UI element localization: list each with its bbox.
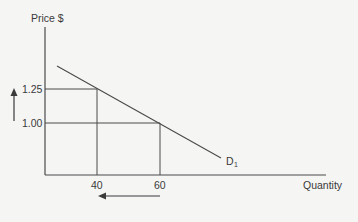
x-axis-label: Quantity — [303, 180, 342, 191]
x-tick-60: 60 — [154, 180, 166, 191]
y-axis-label: Price $ — [31, 13, 64, 24]
curve-label-main: D — [226, 155, 234, 167]
y-tick-1-25: 1.25 — [22, 84, 42, 95]
y-tick-1-00: 1.00 — [22, 118, 42, 129]
price-up-arrow-icon — [11, 88, 18, 121]
demand-chart: Price $ 1.25 1.00 40 60 Quantity D1 — [0, 0, 358, 222]
curve-label-d1: D1 — [226, 156, 238, 167]
demand-curve-d1 — [57, 66, 221, 158]
quantity-left-arrow-icon — [98, 193, 160, 200]
x-tick-40: 40 — [91, 180, 103, 191]
curve-label-subscript: 1 — [234, 161, 238, 168]
